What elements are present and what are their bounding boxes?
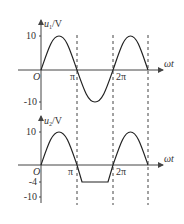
bottom-graph: u2/V 10 -4 -10 O π 2π ωt: [18, 113, 174, 205]
bottom-origin-label: O: [33, 166, 40, 177]
top-ylabel: u1/V: [44, 18, 63, 30]
bottom-ylabel: u2/V: [44, 115, 63, 127]
bottom-tick-label-10: 10: [26, 126, 36, 137]
top-tick-label-2pi: 2π: [116, 71, 126, 82]
top-tick-label-10: 10: [26, 30, 36, 41]
bottom-clipped-curve: [41, 132, 148, 182]
bottom-tick-label-pi: π: [68, 166, 73, 177]
bottom-tick-label-2pi: 2π: [116, 166, 126, 177]
waveform-diagram: u1/V 10 -10 O π 2π ωt u2/V 10 -4 -10 O π…: [0, 0, 184, 224]
top-graph: u1/V 10 -10 O π 2π ωt: [18, 18, 174, 112]
bottom-xlabel: ωt: [164, 153, 174, 164]
top-xlabel: ωt: [164, 58, 174, 69]
bottom-tick-label-neg4: -4: [29, 176, 37, 187]
top-tick-label-pi: π: [70, 71, 75, 82]
top-tick-label-neg10: -10: [24, 96, 37, 107]
bottom-tick-label-neg10: -10: [24, 191, 37, 202]
top-sine-curve: [41, 36, 148, 102]
top-origin-label: O: [33, 71, 40, 82]
